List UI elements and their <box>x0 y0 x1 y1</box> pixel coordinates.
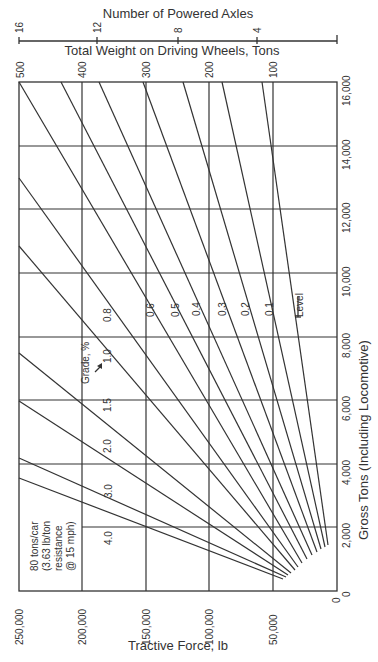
chart-grid <box>19 82 337 591</box>
gross-tick: 6,000 <box>341 396 352 421</box>
grade-arrow-icon <box>95 363 102 372</box>
weight-tick: 500 <box>15 61 26 78</box>
grade-label-level: Level <box>294 293 305 317</box>
grade-label: 0.6 <box>145 303 156 317</box>
note-line: (3.63 lb/ton <box>41 521 52 571</box>
gross-tick: 10,000 <box>341 266 352 297</box>
grade-label: 3.0 <box>103 484 114 498</box>
grade-title: Grade, % <box>80 342 91 384</box>
gross-tons-axis: 0 2,000 4,000 6,000 8,000 10,000 12,000 … <box>341 75 371 597</box>
force-tick: 0 <box>331 597 342 603</box>
weight-tick: 400 <box>77 61 88 78</box>
grade-line-0.6 <box>19 82 302 563</box>
tractive-force-axis: 250,000 200,000 150,000 100,000 50,000 0… <box>14 597 342 653</box>
grade-label: 0.3 <box>217 302 228 316</box>
axles-tick: 4 <box>252 27 263 33</box>
gross-tick: 14,000 <box>341 139 352 170</box>
axles-tick: 8 <box>173 27 184 33</box>
gross-tick: 2,000 <box>341 523 352 548</box>
resistance-note: 80 tons/car (3.63 lb/ton resistance @ 15… <box>29 521 76 571</box>
grade-label: 0.1 <box>264 302 275 316</box>
weight-tick: 300 <box>141 61 152 78</box>
axles-axis-title: Number of Powered Axles <box>103 6 254 21</box>
gross-tons-title: Gross Tons (Including Locomotive) <box>356 340 371 540</box>
grade-label: 0.8 <box>102 308 113 322</box>
grade-label: 1.5 <box>102 398 113 412</box>
note-line: 80 tons/car <box>29 521 40 571</box>
gross-tick: 16,000 <box>341 75 352 106</box>
grade-line-0.4 <box>99 82 312 555</box>
gross-tick: 8,000 <box>341 333 352 358</box>
axles-tick: 12 <box>92 21 103 33</box>
gross-tick: 0 <box>341 591 352 597</box>
tractive-force-chart: Number of Powered Axles 16 12 8 4 Total … <box>0 0 378 662</box>
grade-label: 0.5 <box>170 303 181 317</box>
weight-tick: 200 <box>204 61 215 78</box>
weight-tick: 100 <box>268 61 279 78</box>
weight-axis: Total Weight on Driving Wheels, Tons 500… <box>15 43 280 78</box>
weight-axis-title: Total Weight on Driving Wheels, Tons <box>65 43 280 58</box>
grade-label: 1.0 <box>102 349 113 363</box>
note-line: resistance <box>53 525 64 571</box>
grade-label: 4.0 <box>103 531 114 545</box>
grade-label: 2.0 <box>102 439 113 453</box>
grade-line-0.5 <box>61 82 307 559</box>
force-tick: 50,000 <box>268 614 279 645</box>
grade-lines <box>19 82 328 579</box>
gross-tick: 4,000 <box>341 460 352 485</box>
axles-tick: 16 <box>14 21 25 33</box>
gross-tick: 12,000 <box>341 202 352 233</box>
grade-label: 0.4 <box>191 302 202 316</box>
force-tick: 250,000 <box>14 608 25 645</box>
axles-axis: Number of Powered Axles 16 12 8 4 <box>14 6 337 44</box>
force-tick: 200,000 <box>77 608 88 645</box>
note-line: @ 15 mph) <box>65 521 76 571</box>
grade-label: 0.2 <box>240 302 251 316</box>
tractive-force-title: Tractive Force, lb <box>128 638 228 653</box>
grade-line-1.0 <box>19 246 295 570</box>
